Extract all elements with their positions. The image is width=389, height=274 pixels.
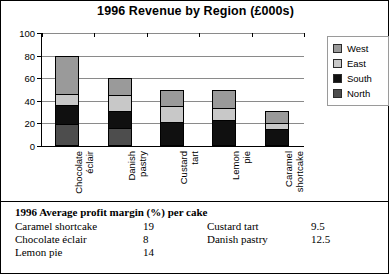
cell-name-right bbox=[207, 246, 311, 259]
table-row: Lemon pie14 bbox=[15, 246, 371, 259]
y-axis-tick-label: 20 bbox=[24, 118, 35, 129]
y-axis-tick-label: 0 bbox=[30, 141, 35, 152]
legend-label: West bbox=[347, 44, 368, 54]
legend-item-south[interactable]: South bbox=[333, 71, 384, 86]
bar-segment-west bbox=[161, 91, 183, 107]
legend-swatch-icon bbox=[333, 44, 342, 53]
cell-value-right bbox=[311, 246, 371, 259]
table-row: Caramel shortcake19Custard tart9.5 bbox=[15, 220, 371, 233]
cell-name-left: Caramel shortcake bbox=[15, 220, 143, 233]
bar-segment-east bbox=[161, 107, 183, 123]
bar-segment-west bbox=[56, 57, 78, 96]
bar-segment-west bbox=[266, 112, 288, 124]
bar-segment-west bbox=[213, 91, 235, 110]
bar-group bbox=[41, 33, 303, 146]
bar-segment-south bbox=[56, 106, 78, 125]
cell-name-left: Lemon pie bbox=[15, 246, 143, 259]
bar-segment-south bbox=[266, 130, 288, 145]
cell-name-left: Chocolate éclair bbox=[15, 233, 143, 246]
bar-column bbox=[55, 56, 79, 146]
bar-segment-east bbox=[56, 95, 78, 106]
cell-value-right: 12.5 bbox=[311, 233, 371, 246]
bar-segment-west bbox=[109, 79, 131, 95]
bar-segment-south bbox=[161, 123, 183, 145]
legend-item-north[interactable]: North bbox=[333, 86, 384, 101]
y-axis-tick-label: 100 bbox=[19, 28, 35, 39]
page-title: 1996 Revenue by Region (£000s) bbox=[1, 4, 389, 18]
bar-column bbox=[160, 90, 184, 147]
legend-label: East bbox=[347, 59, 366, 69]
bar-column bbox=[265, 111, 289, 146]
chart-area: 020406080100 ChocolateéclairDanishpastry… bbox=[10, 23, 381, 201]
cell-value-left: 14 bbox=[143, 246, 207, 259]
y-axis-tick-label: 40 bbox=[24, 95, 35, 106]
bar-segment-north bbox=[109, 129, 131, 145]
bar-segment-south bbox=[109, 112, 131, 128]
x-axis-tick bbox=[304, 33, 305, 37]
bar-column bbox=[212, 90, 236, 147]
y-axis-tick-label: 80 bbox=[24, 50, 35, 61]
cell-name-right: Danish pastry bbox=[207, 233, 311, 246]
table-title: 1996 Average profit margin (%) per cake bbox=[15, 206, 388, 218]
legend-swatch-icon bbox=[333, 59, 342, 68]
bar-segment-north bbox=[56, 125, 78, 145]
cell-value-left: 19 bbox=[143, 220, 207, 233]
legend-swatch-icon bbox=[333, 74, 342, 83]
legend-swatch-icon bbox=[333, 89, 342, 98]
table-row: Chocolate éclair8Danish pastry12.5 bbox=[15, 233, 371, 246]
bar-segment-east bbox=[213, 109, 235, 121]
cell-name-right: Custard tart bbox=[207, 220, 311, 233]
y-axis-tick-label: 60 bbox=[24, 73, 35, 84]
profit-margin-table: 1996 Average profit margin (%) per cake … bbox=[1, 201, 388, 259]
chart-page: 1996 Revenue by Region (£000s) 020406080… bbox=[0, 0, 389, 274]
bar-segment-south bbox=[213, 121, 235, 145]
legend-label: North bbox=[347, 89, 370, 99]
bar-segment-east bbox=[109, 96, 131, 112]
cell-value-right: 9.5 bbox=[311, 220, 371, 233]
legend: WestEastSouthNorth bbox=[327, 36, 389, 106]
legend-label: South bbox=[347, 74, 372, 84]
profit-table: Caramel shortcake19Custard tart9.5Chocol… bbox=[15, 220, 371, 259]
legend-item-east[interactable]: East bbox=[333, 56, 384, 71]
cell-value-left: 8 bbox=[143, 233, 207, 246]
bar-column bbox=[108, 78, 132, 146]
legend-item-west[interactable]: West bbox=[333, 41, 384, 56]
y-axis-tick bbox=[37, 146, 42, 147]
